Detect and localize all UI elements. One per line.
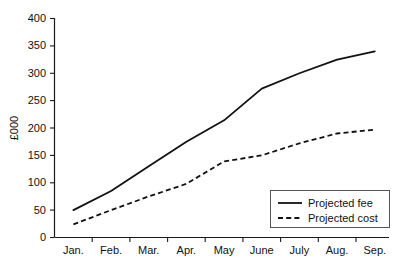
y-tick-label: 350 xyxy=(28,39,46,51)
y-tick-label: 300 xyxy=(28,67,46,79)
legend-label-projected-cost: Projected cost xyxy=(308,212,378,224)
x-tick-label: Aug. xyxy=(326,244,349,256)
x-axis-tick-labels: Jan. Feb. Mar. Apr. May June July Aug. S… xyxy=(63,244,386,256)
line-chart: 400 350 300 250 200 150 100 50 0 £000 Ja… xyxy=(0,0,398,273)
chart-canvas: 400 350 300 250 200 150 100 50 0 £000 Ja… xyxy=(0,0,398,273)
y-tick-label: 400 xyxy=(28,12,46,24)
y-tick-label: 250 xyxy=(28,94,46,106)
x-tick-label: Mar. xyxy=(138,244,159,256)
y-tick-label: 150 xyxy=(28,149,46,161)
y-tick-label: 200 xyxy=(28,122,46,134)
x-tick-label: July xyxy=(290,244,310,256)
x-tick-label: Jan. xyxy=(63,244,84,256)
x-tick-label: Feb. xyxy=(100,244,122,256)
y-axis-title: £000 xyxy=(8,116,20,140)
y-tick-label: 100 xyxy=(28,176,46,188)
x-tick-label: Apr. xyxy=(177,244,197,256)
chart-legend: Projected fee Projected cost xyxy=(271,191,390,228)
legend-label-projected-fee: Projected fee xyxy=(308,197,373,209)
chart-background xyxy=(0,0,398,273)
x-tick-label: June xyxy=(250,244,274,256)
y-tick-label: 50 xyxy=(34,204,46,216)
x-tick-label: May xyxy=(214,244,235,256)
y-tick-label: 0 xyxy=(40,231,46,243)
x-tick-label: Sep. xyxy=(363,244,386,256)
